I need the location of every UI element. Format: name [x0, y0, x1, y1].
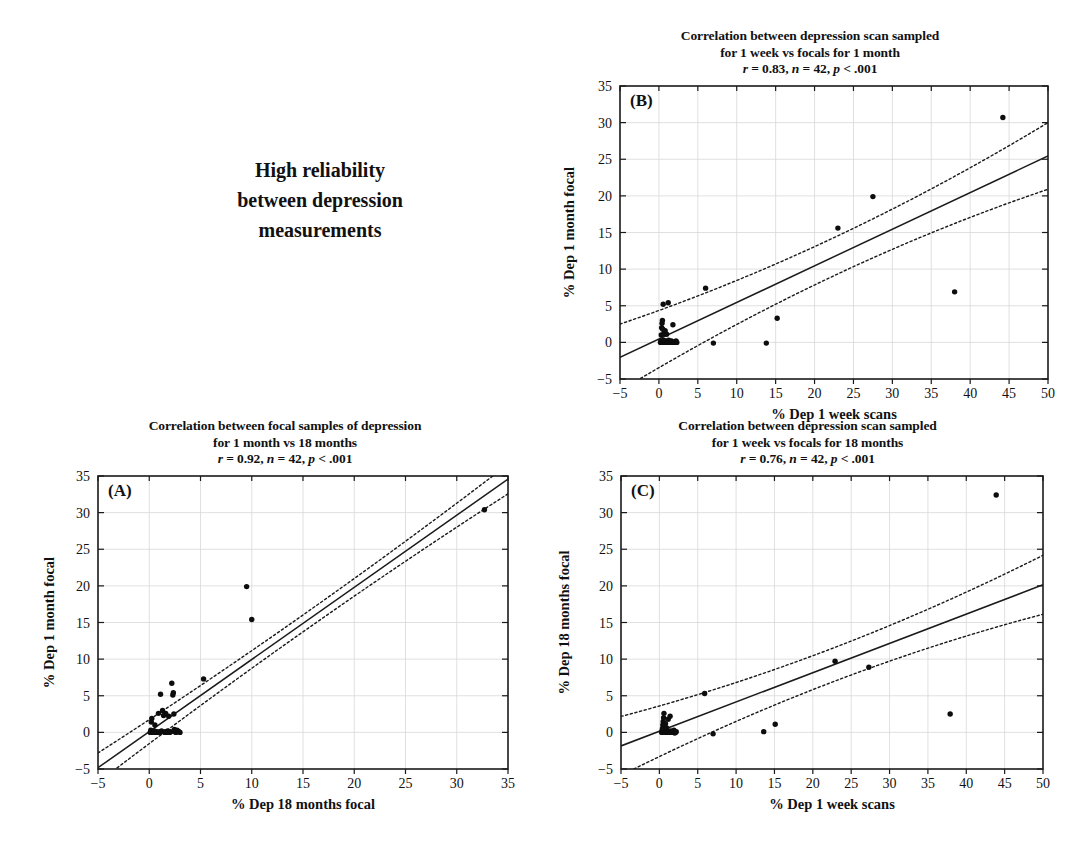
svg-text:10: 10: [245, 776, 259, 791]
svg-text:0: 0: [656, 776, 663, 791]
svg-text:0: 0: [655, 386, 662, 401]
panel-c-n: 42: [811, 451, 824, 466]
svg-text:5: 5: [694, 386, 701, 401]
svg-text:15: 15: [599, 615, 613, 630]
panel-b-plot: −505101520253035404550−505101520253035% …: [560, 78, 1060, 423]
svg-text:(A): (A): [108, 481, 132, 500]
svg-text:35: 35: [924, 386, 938, 401]
svg-text:30: 30: [450, 776, 464, 791]
svg-text:30: 30: [599, 505, 613, 520]
svg-text:(C): (C): [631, 481, 655, 500]
svg-text:0: 0: [605, 335, 612, 350]
panel-a-n: 42: [288, 451, 301, 466]
svg-text:35: 35: [501, 776, 515, 791]
svg-text:15: 15: [76, 615, 90, 630]
svg-text:50: 50: [1036, 776, 1050, 791]
panel-a-title-line-1: Correlation between focal samples of dep…: [40, 418, 530, 435]
svg-text:25: 25: [598, 152, 612, 167]
svg-text:% Dep 1 week scans: % Dep 1 week scans: [769, 796, 895, 812]
svg-text:5: 5: [83, 688, 90, 703]
svg-text:10: 10: [729, 776, 743, 791]
svg-text:5: 5: [606, 688, 613, 703]
figure-caption: High reliability between depression meas…: [140, 155, 500, 245]
svg-text:20: 20: [599, 578, 613, 593]
svg-text:30: 30: [885, 386, 899, 401]
svg-text:35: 35: [76, 469, 90, 484]
svg-text:25: 25: [844, 776, 858, 791]
panel-a-stats: r = 0.92, n = 42, p < .001: [40, 451, 530, 468]
svg-text:0: 0: [606, 725, 613, 740]
svg-text:−5: −5: [614, 776, 629, 791]
caption-line-3: measurements: [140, 215, 500, 245]
caption-line-2: between depression: [140, 185, 500, 215]
svg-text:10: 10: [599, 652, 613, 667]
panel-a-p: < .001: [318, 451, 352, 466]
panel-a-r: 0.92: [237, 451, 260, 466]
svg-text:30: 30: [883, 776, 897, 791]
svg-text:35: 35: [599, 469, 613, 484]
svg-text:20: 20: [808, 386, 822, 401]
svg-text:45: 45: [998, 776, 1012, 791]
panel-c: Correlation between depression scan samp…: [555, 418, 1060, 813]
panel-c-plot: −505101520253035404550−505101520253035% …: [555, 468, 1060, 813]
panel-b-r: 0.83: [762, 61, 785, 76]
svg-text:−5: −5: [613, 386, 628, 401]
panel-a-title-line-2: for 1 month vs 18 months: [40, 435, 530, 452]
panel-b: Correlation between depression scan samp…: [560, 28, 1060, 423]
svg-text:5: 5: [605, 298, 612, 313]
svg-text:% Dep 18 months focal: % Dep 18 months focal: [231, 796, 375, 812]
panel-c-r: 0.76: [760, 451, 783, 466]
svg-text:10: 10: [598, 262, 612, 277]
svg-text:10: 10: [730, 386, 744, 401]
svg-text:% Dep 1 month focal: % Dep 1 month focal: [41, 556, 57, 687]
svg-text:5: 5: [694, 776, 701, 791]
panel-b-stats: r = 0.83, n = 42, p < .001: [560, 61, 1060, 78]
panel-a: Correlation between focal samples of dep…: [40, 418, 530, 813]
panel-b-title-line-1: Correlation between depression scan samp…: [560, 28, 1060, 45]
panel-a-plot: −505101520253035−505101520253035% Dep 18…: [40, 468, 530, 813]
panel-c-p: < .001: [841, 451, 875, 466]
panel-b-n: 42: [813, 61, 826, 76]
svg-text:20: 20: [598, 188, 612, 203]
svg-text:35: 35: [921, 776, 935, 791]
panel-a-title: Correlation between focal samples of dep…: [40, 418, 530, 468]
svg-text:15: 15: [769, 386, 783, 401]
svg-text:45: 45: [1002, 386, 1016, 401]
svg-text:5: 5: [197, 776, 204, 791]
svg-text:10: 10: [76, 652, 90, 667]
svg-text:% Dep 1 month focal: % Dep 1 month focal: [561, 166, 577, 297]
svg-text:15: 15: [296, 776, 310, 791]
panel-c-title: Correlation between depression scan samp…: [555, 418, 1060, 468]
svg-text:40: 40: [959, 776, 973, 791]
svg-text:30: 30: [76, 505, 90, 520]
svg-text:15: 15: [767, 776, 781, 791]
panel-c-title-line-2: for 1 week vs focals for 18 months: [555, 435, 1060, 452]
svg-text:−5: −5: [597, 372, 612, 387]
svg-text:35: 35: [598, 79, 612, 94]
svg-text:30: 30: [598, 115, 612, 130]
svg-text:40: 40: [963, 386, 977, 401]
svg-text:25: 25: [846, 386, 860, 401]
svg-text:−5: −5: [75, 762, 90, 777]
svg-text:(B): (B): [630, 91, 653, 110]
svg-text:−5: −5: [598, 762, 613, 777]
svg-text:25: 25: [599, 542, 613, 557]
svg-text:0: 0: [146, 776, 153, 791]
panel-b-title-line-2: for 1 week vs focals for 1 month: [560, 45, 1060, 62]
panel-b-title: Correlation between depression scan samp…: [560, 28, 1060, 78]
svg-text:50: 50: [1041, 386, 1055, 401]
svg-text:0: 0: [83, 725, 90, 740]
panel-c-stats: r = 0.76, n = 42, p < .001: [555, 451, 1060, 468]
svg-text:25: 25: [76, 542, 90, 557]
svg-text:20: 20: [347, 776, 361, 791]
caption-line-1: High reliability: [140, 155, 500, 185]
svg-text:15: 15: [598, 225, 612, 240]
svg-text:25: 25: [399, 776, 413, 791]
panel-c-title-line-1: Correlation between depression scan samp…: [555, 418, 1060, 435]
svg-text:20: 20: [806, 776, 820, 791]
svg-text:−5: −5: [91, 776, 106, 791]
panel-b-p: < .001: [843, 61, 877, 76]
svg-text:% Dep 18 months focal: % Dep 18 months focal: [556, 550, 572, 694]
svg-text:20: 20: [76, 578, 90, 593]
